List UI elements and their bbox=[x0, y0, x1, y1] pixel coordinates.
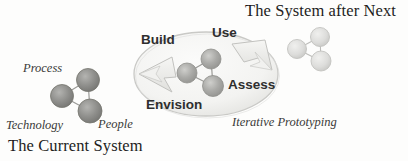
title-system-after-next: The System after Next bbox=[245, 3, 396, 20]
current-system-cluster bbox=[51, 69, 103, 124]
label-process: Process bbox=[23, 62, 62, 75]
label-assess: Assess bbox=[228, 78, 275, 92]
caption-iterative-prototyping: Iterative Prototyping bbox=[232, 116, 337, 129]
diagram-canvas: The System after Next The Current System… bbox=[0, 0, 408, 161]
node-technology bbox=[51, 85, 74, 108]
label-build: Build bbox=[141, 33, 175, 47]
title-current-system: The Current System bbox=[8, 138, 143, 155]
future-system-cluster bbox=[288, 28, 332, 72]
label-technology: Technology bbox=[6, 119, 63, 132]
label-people: People bbox=[98, 118, 133, 131]
label-envision: Envision bbox=[146, 98, 202, 112]
node-process bbox=[77, 69, 100, 92]
label-use: Use bbox=[212, 26, 237, 40]
